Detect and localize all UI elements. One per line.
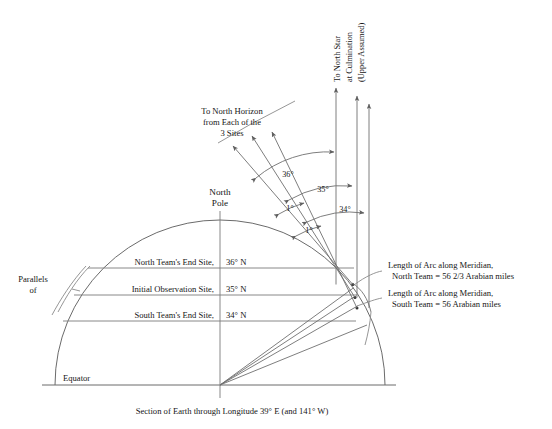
- parallels-label-line1: Parallels: [18, 274, 48, 284]
- north-pole-label-line1: North: [209, 187, 231, 197]
- north-pole-label-line2: Pole: [212, 198, 228, 208]
- arc-note-south-line1: Length of Arc along Meridian,: [388, 288, 493, 298]
- parallels-label-line2: of: [29, 285, 36, 295]
- radius-to-north-site: [220, 288, 354, 385]
- arc-note-north-line1: Length of Arc along Meridian,: [388, 260, 493, 270]
- horizon-label-line1: To North Horizon: [201, 106, 263, 116]
- parallels-bracket-outer: [52, 266, 86, 315]
- horizon-label-line2: from Each of the: [203, 117, 261, 127]
- radius-lines: [220, 288, 367, 385]
- horizon-ray-north-site: [233, 146, 353, 285]
- meridian-arc-tail: [365, 312, 371, 345]
- arc-note-leader-north: [354, 271, 382, 285]
- site-label-initial-latitude: 35° N: [226, 284, 247, 294]
- site-label-north-latitude: 36° N: [226, 257, 247, 267]
- horizon-label-line3: 3 Sites: [220, 128, 244, 138]
- angle-arcs: [256, 152, 364, 236]
- north-star-label-line1: To North Star: [333, 36, 342, 82]
- angle-arc-34: [307, 212, 364, 222]
- figure-caption: Section of Earth through Longitude 39° E…: [136, 406, 329, 416]
- angle-arc-36: [256, 152, 334, 178]
- site-label-south-name: South Team's End Site,: [134, 310, 214, 320]
- angle-label-36: 36°: [282, 170, 293, 179]
- horizon-ray-south-site: [272, 132, 357, 308]
- arc-note-north-line2: North Team = 56 2/3 Arabian miles: [392, 271, 515, 281]
- equator-label: Equator: [63, 373, 90, 383]
- diagram-canvas: North Pole Equator Parallels of To North…: [0, 0, 552, 429]
- parallels-bracket-tick: [72, 289, 80, 291]
- site-label-initial-name: Initial Observation Site,: [132, 284, 214, 294]
- arc-note-south-line2: South Team = 56 Arabian miles: [392, 299, 502, 309]
- north-star-label-line2: at Culmination: [345, 31, 354, 82]
- angle-label-34: 34°: [339, 205, 350, 214]
- angle-label-35: 35°: [317, 185, 328, 194]
- site-label-north-name: North Team's End Site,: [134, 257, 214, 267]
- angle-label-1-lower: 1°: [305, 226, 312, 235]
- north-star-label-line3: (Upper Assumed): [357, 22, 366, 82]
- radius-extra-lower: [220, 325, 367, 385]
- site-label-south-latitude: 34° N: [226, 310, 247, 320]
- north-horizon-rays: [233, 132, 357, 308]
- angle-label-1-upper: 1°: [286, 204, 293, 213]
- horizon-ray-initial-site: [252, 136, 355, 298]
- earth-section-diagram: North Pole Equator Parallels of To North…: [0, 0, 552, 429]
